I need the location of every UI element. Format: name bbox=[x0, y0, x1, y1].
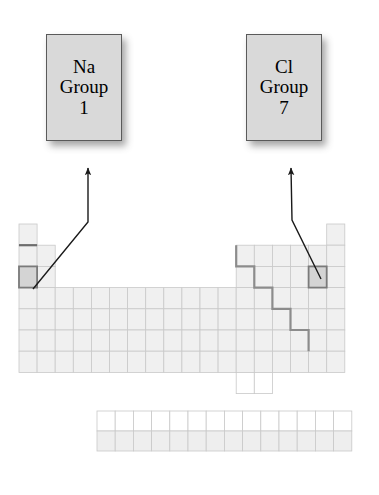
element-cell bbox=[291, 266, 309, 287]
element-cell bbox=[146, 351, 164, 372]
element-cell bbox=[37, 351, 55, 372]
callout-symbol: Na bbox=[73, 57, 95, 78]
element-cell bbox=[309, 266, 327, 287]
element-cell bbox=[91, 330, 109, 351]
element-cell bbox=[254, 288, 272, 309]
f-block-cell bbox=[188, 431, 206, 451]
element-cell bbox=[236, 245, 254, 266]
element-cell bbox=[110, 288, 128, 309]
element-cell bbox=[236, 330, 254, 351]
element-cell bbox=[254, 245, 272, 266]
f-block-cell bbox=[97, 431, 115, 451]
element-cell bbox=[200, 330, 218, 351]
element-cell bbox=[254, 330, 272, 351]
f-block-cell bbox=[315, 431, 333, 451]
element-cell bbox=[291, 245, 309, 266]
f-block-cell bbox=[315, 411, 333, 431]
element-cell bbox=[128, 288, 146, 309]
f-block-cell bbox=[224, 411, 242, 431]
element-cell bbox=[37, 245, 55, 266]
element-cell bbox=[236, 351, 254, 372]
element-cell bbox=[291, 288, 309, 309]
element-cell bbox=[164, 330, 182, 351]
element-cell bbox=[236, 266, 254, 287]
element-cell bbox=[327, 309, 345, 330]
f-block-cell bbox=[206, 431, 224, 451]
f-block-cell bbox=[206, 411, 224, 431]
element-cell bbox=[182, 330, 200, 351]
element-cell bbox=[73, 288, 91, 309]
f-block-cell bbox=[170, 431, 188, 451]
element-cell bbox=[164, 351, 182, 372]
element-cell bbox=[19, 266, 37, 287]
callout-box-sodium[interactable]: Na Group 1 bbox=[46, 34, 122, 141]
f-block-cell bbox=[115, 411, 133, 431]
element-cell bbox=[91, 309, 109, 330]
f-block-cell bbox=[297, 431, 315, 451]
element-cell bbox=[218, 330, 236, 351]
element-cell bbox=[55, 330, 73, 351]
element-cell bbox=[327, 288, 345, 309]
element-cell bbox=[73, 351, 91, 372]
element-cell bbox=[291, 351, 309, 372]
callout-group-number: 7 bbox=[279, 98, 289, 119]
f-block-cell bbox=[133, 411, 151, 431]
element-cell bbox=[254, 351, 272, 372]
element-cell bbox=[309, 351, 327, 372]
element-cell bbox=[110, 309, 128, 330]
element-cell bbox=[164, 288, 182, 309]
f-block-cell bbox=[279, 411, 297, 431]
element-cell bbox=[55, 351, 73, 372]
element-cell bbox=[55, 288, 73, 309]
element-cell bbox=[272, 288, 290, 309]
element-cell bbox=[272, 266, 290, 287]
element-cell bbox=[272, 351, 290, 372]
element-cell bbox=[146, 288, 164, 309]
element-cell bbox=[200, 309, 218, 330]
element-cell bbox=[272, 330, 290, 351]
element-cell bbox=[37, 309, 55, 330]
element-cell bbox=[327, 266, 345, 287]
element-cell bbox=[110, 330, 128, 351]
element-cell bbox=[128, 330, 146, 351]
f-block-cell bbox=[97, 411, 115, 431]
element-cell bbox=[254, 266, 272, 287]
element-cell bbox=[19, 245, 37, 266]
element-cell bbox=[309, 309, 327, 330]
f-block-cell bbox=[152, 431, 170, 451]
f-block-cell bbox=[243, 431, 261, 451]
element-cell bbox=[19, 351, 37, 372]
element-cell bbox=[218, 351, 236, 372]
element-cell bbox=[254, 309, 272, 330]
element-cell bbox=[272, 245, 290, 266]
element-cell bbox=[182, 351, 200, 372]
callout-group-word: Group bbox=[60, 77, 109, 98]
element-cell bbox=[218, 288, 236, 309]
callout-symbol: Cl bbox=[275, 57, 293, 78]
element-cell bbox=[19, 288, 37, 309]
element-cell bbox=[236, 288, 254, 309]
element-cell bbox=[19, 224, 37, 245]
f-block-cell bbox=[133, 431, 151, 451]
element-cell bbox=[200, 351, 218, 372]
element-cell bbox=[327, 245, 345, 266]
f-block-cell bbox=[152, 411, 170, 431]
element-cell bbox=[37, 330, 55, 351]
element-cell bbox=[327, 330, 345, 351]
figure-canvas: Na Group 1 Cl Group 7 bbox=[0, 0, 379, 495]
element-cell bbox=[272, 309, 290, 330]
f-block-cell bbox=[224, 431, 242, 451]
element-cell bbox=[254, 372, 272, 393]
element-cell bbox=[19, 309, 37, 330]
callout-box-chlorine[interactable]: Cl Group 7 bbox=[246, 34, 322, 141]
element-cell bbox=[182, 309, 200, 330]
element-cell bbox=[327, 224, 345, 245]
element-cell bbox=[291, 330, 309, 351]
f-block-cell bbox=[170, 411, 188, 431]
element-cell bbox=[327, 351, 345, 372]
f-block-cell bbox=[334, 411, 352, 431]
element-cell bbox=[110, 351, 128, 372]
element-cell bbox=[73, 330, 91, 351]
callout-group-word: Group bbox=[260, 77, 309, 98]
element-cell bbox=[309, 330, 327, 351]
